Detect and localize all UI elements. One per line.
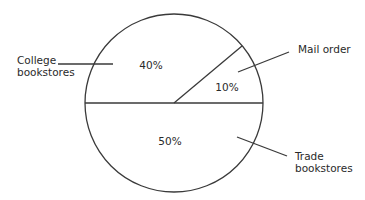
slice-divider-mail-order (174, 46, 242, 103)
leader-line-mail-order (238, 52, 289, 72)
category-label-college-line1: College (17, 54, 56, 66)
category-label-trade-line2: bookstores (295, 162, 353, 174)
leader-line-trade (237, 137, 287, 156)
category-label-college-line2: bookstores (17, 66, 75, 78)
category-label-trade-line1: Trade (294, 150, 324, 162)
slice-value-mail-order: 10% (215, 81, 238, 93)
slice-value-college: 40% (139, 59, 162, 71)
pie-chart: 40% 10% 50% College bookstores Mail orde… (0, 0, 365, 200)
category-label-mail-order: Mail order (298, 43, 351, 55)
slice-value-trade: 50% (158, 135, 181, 147)
